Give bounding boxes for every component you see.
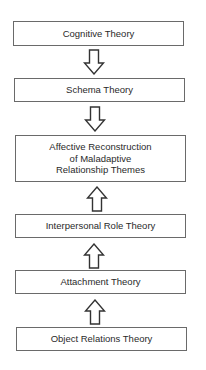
box-affective-reconstruction: Affective Reconstruction of Maladaptive … xyxy=(15,135,186,182)
box-attachment-theory: Attachment Theory xyxy=(15,270,186,294)
box-label: Affective Reconstruction of Maladaptive … xyxy=(49,141,151,176)
box-label: Attachment Theory xyxy=(60,276,140,288)
box-label: Object Relations Theory xyxy=(51,333,153,345)
box-interpersonal-role-theory: Interpersonal Role Theory xyxy=(15,214,186,238)
box-label: Interpersonal Role Theory xyxy=(46,220,156,232)
arrow-up-icon xyxy=(83,243,105,269)
arrow-down-icon xyxy=(83,49,105,75)
arrow-down-icon xyxy=(84,106,106,132)
arrow-up-icon xyxy=(86,186,108,212)
box-schema-theory: Schema Theory xyxy=(14,78,185,102)
box-object-relations-theory: Object Relations Theory xyxy=(16,327,187,351)
box-cognitive-theory: Cognitive Theory xyxy=(13,21,184,46)
arrow-up-icon xyxy=(84,299,106,325)
box-label: Cognitive Theory xyxy=(63,28,135,40)
box-label: Schema Theory xyxy=(66,84,133,96)
